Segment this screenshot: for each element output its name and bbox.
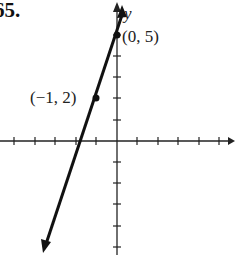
y-axis-arrow-icon	[113, 2, 121, 12]
point-label-neg1-2: (−1, 2)	[30, 88, 76, 108]
point-label-0-5: (0, 5)	[122, 27, 159, 47]
graph	[0, 0, 235, 255]
x-axis-arrow-icon	[228, 137, 235, 145]
point-0-5	[114, 32, 121, 39]
line-arrow-down-icon	[41, 239, 51, 253]
y-axis-label: y	[124, 4, 132, 24]
point-neg1-2	[93, 95, 100, 102]
graph-line	[46, 12, 123, 244]
